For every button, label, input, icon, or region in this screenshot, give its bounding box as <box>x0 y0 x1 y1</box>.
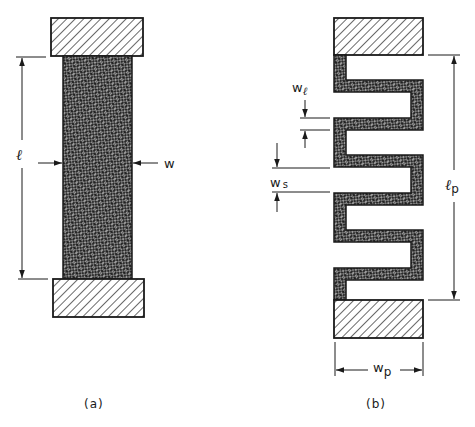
spacing-dimension: ws <box>270 143 330 212</box>
meander-length-dimension: ℓp <box>428 55 460 300</box>
top-contact-block-b <box>334 18 423 55</box>
bottom-contact-block-b <box>334 300 423 338</box>
caption-b: (b) <box>366 397 386 411</box>
top-contact-block-a <box>51 18 143 56</box>
meander-strip <box>334 55 423 300</box>
line-width-dimension: wℓ <box>292 80 330 148</box>
caption-a: (a) <box>84 397 104 411</box>
bottom-contact-block-a <box>53 279 144 317</box>
spacing-label: ws <box>270 175 288 190</box>
meander-width-label: wp <box>373 360 391 379</box>
length-label-a: ℓ <box>16 146 22 164</box>
line-width-label: wℓ <box>292 80 308 98</box>
panel-a: ℓ w (a) <box>16 18 175 411</box>
length-dimension-a: ℓ <box>16 57 48 279</box>
width-label-a: w <box>164 156 175 171</box>
straight-strip <box>63 56 132 279</box>
meander-width-dimension: wp <box>335 342 423 379</box>
meander-length-label: ℓp <box>445 176 459 196</box>
panel-b: wℓ ws ℓp <box>270 18 460 411</box>
figure-diagram: ℓ w (a) wℓ <box>0 0 475 427</box>
